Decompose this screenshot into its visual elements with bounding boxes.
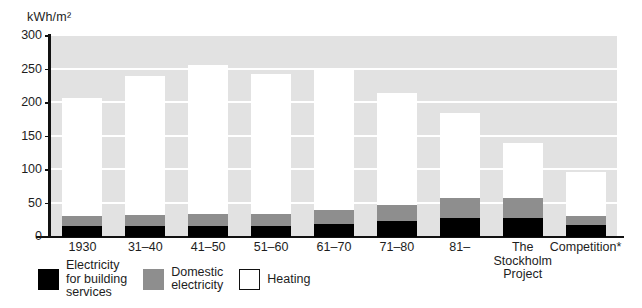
bar-segment-domestic-electricity — [440, 198, 480, 218]
bar-segment-electricity-building-services — [125, 226, 165, 237]
bar-segment-domestic-electricity — [566, 216, 606, 225]
legend-label-3: Heating — [267, 273, 310, 287]
legend-item-2: Domestic electricity — [143, 266, 223, 293]
y-tick-mark-250 — [45, 69, 50, 71]
bar-segment-electricity-building-services — [251, 226, 291, 237]
x-axis-label-9: Competition* — [548, 241, 623, 255]
bar-segment-heating — [62, 98, 102, 215]
bar-segment-heating — [440, 113, 480, 198]
bar-segment-domestic-electricity — [125, 215, 165, 226]
bar-segment-electricity-building-services — [62, 226, 102, 237]
bar-segment-heating — [566, 172, 606, 216]
bar-segment-domestic-electricity — [314, 210, 354, 224]
bar-segment-heating — [125, 76, 165, 215]
bar-series-group — [51, 36, 617, 237]
bar-segment-heating — [188, 65, 228, 214]
chart-container: kWh/m² 050100150200250300 193031–4041–50… — [0, 0, 642, 308]
bar-8 — [503, 143, 543, 237]
y-tick-label-100: 100 — [8, 162, 42, 176]
bar-segment-heating — [251, 74, 291, 214]
bar-segment-electricity-building-services — [377, 221, 417, 237]
bar-2 — [125, 76, 165, 237]
bar-7 — [440, 113, 480, 237]
y-tick-label-250: 250 — [8, 62, 42, 76]
y-tick-mark-100 — [45, 169, 50, 171]
bar-segment-electricity-building-services — [566, 225, 606, 237]
bar-segment-heating — [503, 143, 543, 198]
bar-segment-electricity-building-services — [440, 218, 480, 237]
white-swatch-icon — [239, 269, 260, 290]
bar-6 — [377, 93, 417, 237]
y-tick-mark-200 — [45, 102, 50, 104]
legend-item-1: Electricity for building services — [38, 259, 127, 300]
legend-label-2: Domestic electricity — [171, 266, 223, 293]
bar-segment-domestic-electricity — [62, 216, 102, 226]
y-tick-mark-50 — [45, 203, 50, 205]
chart-legend: Electricity for building servicesDomesti… — [38, 259, 326, 300]
bar-segment-domestic-electricity — [503, 198, 543, 218]
legend-item-3: Heating — [239, 269, 310, 290]
y-tick-label-300: 300 — [8, 28, 42, 42]
legend-label-1: Electricity for building services — [66, 259, 127, 300]
bar-4 — [251, 74, 291, 237]
bar-segment-electricity-building-services — [503, 218, 543, 237]
y-tick-label-50: 50 — [8, 196, 42, 210]
bar-segment-heating — [314, 70, 354, 210]
bar-segment-domestic-electricity — [251, 214, 291, 225]
y-tick-label-150: 150 — [8, 129, 42, 143]
y-tick-label-0: 0 — [8, 229, 42, 243]
bar-segment-electricity-building-services — [188, 226, 228, 237]
bar-segment-domestic-electricity — [188, 214, 228, 225]
y-tick-mark-300 — [45, 35, 50, 37]
axis-unit-title: kWh/m² — [27, 10, 71, 24]
gray-swatch-icon — [143, 269, 164, 290]
y-tick-mark-150 — [45, 136, 50, 138]
bar-5 — [314, 70, 354, 237]
bar-9 — [566, 172, 606, 237]
bar-3 — [188, 65, 228, 237]
y-tick-label-200: 200 — [8, 95, 42, 109]
bar-segment-domestic-electricity — [377, 205, 417, 221]
y-tick-mark-0 — [45, 236, 50, 238]
bar-1 — [62, 98, 102, 237]
bar-segment-electricity-building-services — [314, 224, 354, 237]
bar-segment-heating — [377, 93, 417, 205]
black-swatch-icon — [38, 269, 59, 290]
